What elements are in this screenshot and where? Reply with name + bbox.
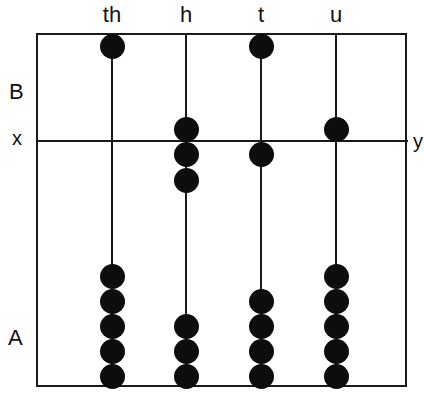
bead-lower-u[interactable]: [324, 339, 349, 364]
bead-upper-th[interactable]: [100, 34, 125, 59]
column-label-u: u: [330, 2, 342, 28]
column-label-t: t: [258, 2, 264, 28]
bead-lower-u[interactable]: [324, 289, 349, 314]
bead-upper-u[interactable]: [324, 117, 349, 142]
bead-lower-u[interactable]: [324, 264, 349, 289]
bead-lower-t[interactable]: [249, 289, 274, 314]
section-label-lower: A: [8, 326, 23, 350]
bead-upper-t[interactable]: [249, 34, 274, 59]
bead-upper-h[interactable]: [174, 142, 199, 167]
column-label-h: h: [180, 2, 192, 28]
bead-upper-t[interactable]: [249, 142, 274, 167]
abacus-frame: [36, 33, 407, 387]
divider-label-right: y: [413, 129, 423, 153]
bead-lower-th[interactable]: [100, 264, 125, 289]
bead-lower-th[interactable]: [100, 364, 125, 389]
bead-lower-t[interactable]: [249, 314, 274, 339]
bead-lower-th[interactable]: [100, 339, 125, 364]
bead-lower-h[interactable]: [174, 314, 199, 339]
bead-lower-h[interactable]: [174, 339, 199, 364]
section-label-upper: B: [9, 80, 24, 104]
bead-lower-th[interactable]: [100, 314, 125, 339]
bead-lower-u[interactable]: [324, 314, 349, 339]
bead-lower-th[interactable]: [100, 289, 125, 314]
bead-lower-h[interactable]: [174, 364, 199, 389]
column-label-th: th: [103, 2, 121, 28]
bead-upper-h[interactable]: [174, 117, 199, 142]
divider-label-left: x: [12, 126, 22, 150]
bead-lower-t[interactable]: [249, 364, 274, 389]
bead-lower-u[interactable]: [324, 364, 349, 389]
divider-bar-xy: [36, 140, 408, 142]
bead-upper-h[interactable]: [174, 168, 199, 193]
bead-lower-t[interactable]: [249, 339, 274, 364]
